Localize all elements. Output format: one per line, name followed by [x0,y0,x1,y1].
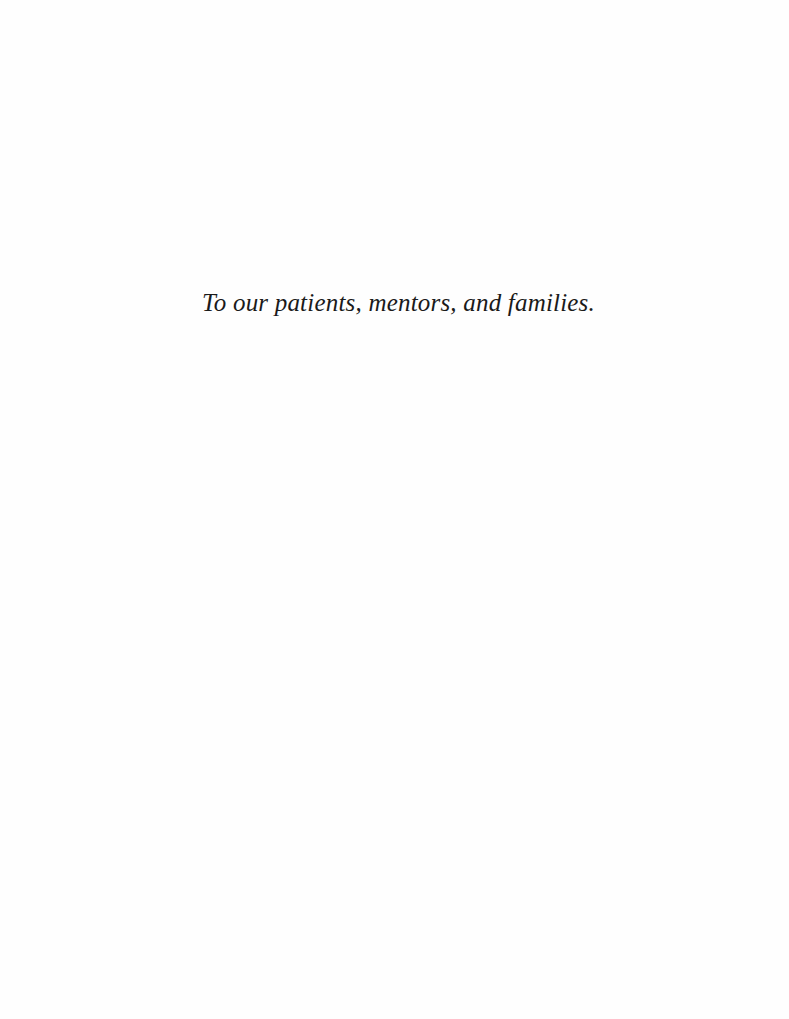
dedication-page: To our patients, mentors, and families. [0,0,789,1019]
dedication-text: To our patients, mentors, and families. [0,286,789,320]
